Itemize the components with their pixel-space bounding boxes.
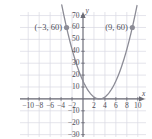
y-axis-tick-label: 60 [72, 24, 80, 32]
data-point-label: (−3, 60) [35, 23, 62, 32]
x-axis-tick-label: 6 [114, 102, 118, 110]
y-axis-tick-label: 40 [72, 48, 80, 56]
data-point-marker[interactable] [64, 25, 69, 30]
y-axis-tick-label: 10 [72, 83, 80, 91]
y-axis-tick-label: 70 [72, 12, 80, 20]
x-axis-tick-label: 2 [92, 102, 96, 110]
y-axis-tick-label: 50 [72, 36, 80, 44]
x-axis-tick-label: −4 [57, 102, 65, 110]
x-axis-tick-label: −10 [22, 102, 34, 110]
y-axis-tick-label: 20 [72, 71, 80, 79]
y-axis-tick-label: −10 [68, 107, 80, 115]
x-axis-tick-label: 8 [125, 102, 129, 110]
x-axis-tick-label: 4 [103, 102, 107, 110]
y-axis-name: y [86, 7, 89, 15]
y-axis-tick-label: −30 [68, 131, 80, 139]
parabola-chart: −10−8−6−4−224681070605040302010−10−20−30… [0, 0, 152, 139]
x-axis-tick-label: 10 [134, 102, 142, 110]
y-axis-tick-label: 30 [72, 59, 80, 67]
x-axis-tick-label: −8 [35, 102, 43, 110]
y-axis-tick-label: −20 [68, 119, 80, 127]
x-axis-name: x [142, 90, 145, 98]
data-point-marker[interactable] [130, 25, 135, 30]
data-point-label: (9, 60) [105, 23, 128, 32]
x-axis-tick-label: −6 [46, 102, 54, 110]
